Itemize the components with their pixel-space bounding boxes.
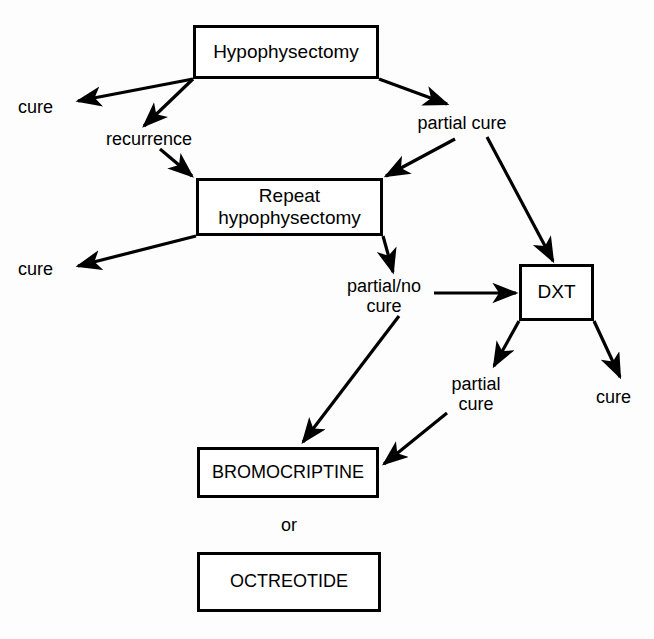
node-octreotide-label: OCTREOTIDE xyxy=(230,571,348,592)
edge-partial-no-cure-to-bromocriptine xyxy=(303,316,399,442)
label-partial-cure-from-hypophysectomy: partial cure xyxy=(410,114,514,134)
edge-repeat-to-cure xyxy=(78,236,196,266)
edge-hypophysectomy-to-partial-cure xyxy=(379,79,447,104)
label-cure-from-hypophysectomy: cure xyxy=(18,98,70,118)
edge-partial-cure-to-dxt xyxy=(487,137,553,261)
label-recurrence: recurrence xyxy=(106,130,206,150)
node-bromocriptine-label: BROMOCRIPTINE xyxy=(212,462,364,483)
node-hypophysectomy[interactable]: Hypophysectomy xyxy=(193,25,379,79)
label-partial-no-cure: partial/no cure xyxy=(335,277,433,317)
edge-dxt-to-partial-cure xyxy=(494,321,519,366)
label-cure-from-repeat: cure xyxy=(18,260,70,280)
label-cure-from-dxt: cure xyxy=(596,388,650,408)
node-repeat-hypophysectomy[interactable]: Repeat hypophysectomy xyxy=(196,178,383,236)
edge-recurrence-to-repeat xyxy=(160,149,192,176)
edge-dxt-to-cure xyxy=(594,321,620,377)
node-bromocriptine[interactable]: BROMOCRIPTINE xyxy=(197,447,379,498)
node-dxt-label: DXT xyxy=(538,281,576,303)
edge-repeat-to-partial-no-cure xyxy=(383,236,393,272)
node-dxt[interactable]: DXT xyxy=(519,264,594,321)
edge-partial-cure-to-bromocriptine xyxy=(384,413,447,464)
label-partial-cure-from-dxt: partial cure xyxy=(438,375,514,415)
flowchart-canvas: Hypophysectomy Repeat hypophysectomy DXT… xyxy=(0,0,654,639)
label-or-connector: or xyxy=(265,516,313,536)
node-repeat-hypophysectomy-label: Repeat hypophysectomy xyxy=(218,185,361,230)
edge-partial-cure-to-repeat xyxy=(386,139,455,176)
node-hypophysectomy-label: Hypophysectomy xyxy=(213,41,359,63)
node-octreotide[interactable]: OCTREOTIDE xyxy=(197,552,381,612)
